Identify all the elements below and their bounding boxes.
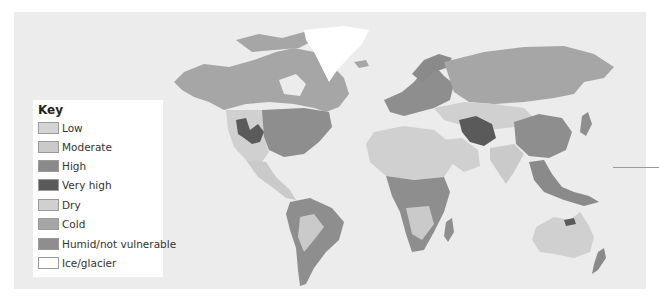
swatch-humid [38,238,59,250]
region-china [514,114,572,158]
region-arctic-islands [236,32,314,52]
legend-item-cold: Cold [38,217,85,231]
legend-item-humid: Humid/not vulnerable [38,237,176,251]
region-russia [444,46,614,104]
legend-item-moderate: Moderate [38,140,112,154]
region-india [490,144,524,184]
legend-item-ice: Ice/glacier [38,256,116,270]
swatch-very-high [38,179,59,191]
leader-line [613,167,659,168]
region-madagascar [444,218,454,242]
swatch-high [38,160,59,172]
swatch-low [38,122,59,134]
legend-label: Humid/not vulnerable [62,238,176,250]
legend-title: Key [38,103,63,117]
legend-label: Very high [62,179,112,191]
legend-label: High [62,160,86,172]
region-iceland [354,60,369,68]
swatch-dry [38,199,59,211]
legend-item-high: High [38,159,86,173]
legend-item-very-high: Very high [38,178,112,192]
legend-label: Dry [62,199,81,211]
region-usa-east [262,108,332,157]
map-legend: Key Low Moderate High Very high Dry Cold… [33,100,163,277]
legend-item-dry: Dry [38,198,81,212]
region-southeast-asia [529,160,599,206]
swatch-moderate [38,141,59,153]
swatch-cold [38,218,59,230]
legend-label: Moderate [62,141,112,153]
swatch-ice [38,257,59,269]
legend-item-low: Low [38,121,83,135]
region-central-america [246,160,296,200]
region-new-zealand [592,248,606,274]
legend-label: Low [62,122,83,134]
region-africa-north [366,126,454,180]
region-japan [580,112,592,136]
region-south-america [286,198,344,286]
region-australia [532,212,594,258]
legend-label: Cold [62,218,85,230]
legend-label: Ice/glacier [62,257,116,269]
